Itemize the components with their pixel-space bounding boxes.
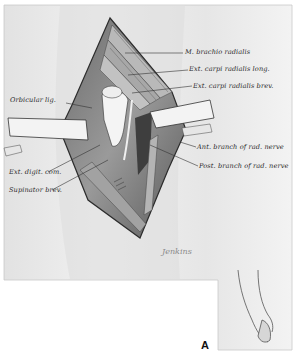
label-ext-digit-com: Ext. digit. com. (9, 168, 62, 176)
artist-signature: Jenkins (162, 247, 192, 256)
label-ext-carpi-radialis-long: Ext. carpi radialis long. (189, 65, 270, 73)
anatomical-illustration (0, 0, 297, 356)
label-orbicular-lig: Orbicular lig. (10, 96, 56, 104)
label-ant-branch-rad-nerve: Ant. branch of rad. nerve (197, 143, 284, 151)
figure-letter: A (201, 339, 209, 351)
label-supinator-brev: Supinator brev. (9, 186, 62, 194)
label-brachioradialis: M. brachio radialis (185, 48, 250, 56)
label-ext-carpi-radialis-brev: Ext. carpi radialis brev. (193, 82, 273, 90)
label-post-branch-rad-nerve: Post. branch of rad. nerve (199, 162, 288, 170)
